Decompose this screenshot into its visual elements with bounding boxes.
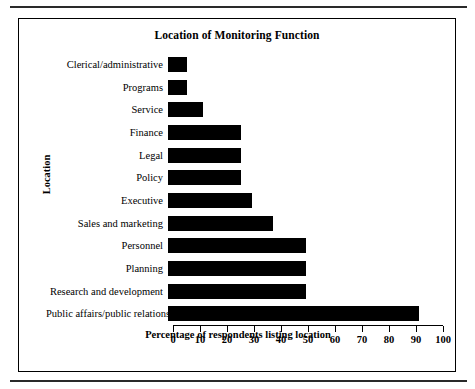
bar-category-label: Planning [46, 263, 168, 274]
bar-category-label: Personnel [46, 240, 168, 251]
x-axis-title: Percentage of respondents listing locati… [19, 329, 457, 340]
bar [168, 238, 306, 253]
bar-row: Executive [46, 189, 446, 212]
bar-lane [168, 257, 438, 280]
bar [168, 148, 241, 163]
bar-lane [168, 166, 438, 189]
bar-category-label: Legal [46, 150, 168, 161]
bar-lane [168, 121, 438, 144]
bar [168, 80, 187, 95]
page-rule-bottom [10, 380, 467, 382]
bar [168, 284, 306, 299]
bar-row: Personnel [46, 234, 446, 257]
bar-category-label: Sales and marketing [46, 218, 168, 229]
bar-lane [168, 302, 438, 325]
bar-row: Research and development [46, 280, 446, 303]
bar-category-label: Research and development [46, 286, 168, 297]
bar-row: Clerical/administrative [46, 53, 446, 76]
bar-lane [168, 212, 438, 235]
bar-category-label: Service [46, 104, 168, 115]
chart-title: Location of Monitoring Function [19, 29, 455, 41]
page-rule-top [10, 6, 467, 8]
bar-category-label: Clerical/administrative [46, 59, 168, 70]
x-axis: 0102030405060708090100 [173, 325, 443, 326]
bar-lane [168, 76, 438, 99]
bar-row: Finance [46, 121, 446, 144]
bar-row: Programs [46, 76, 446, 99]
bar-row: Planning [46, 257, 446, 280]
bar-category-label: Public affairs/public relations [46, 308, 168, 319]
bar-row: Public affairs/public relations [46, 302, 446, 325]
bar-lane [168, 280, 438, 303]
bar-lane [168, 234, 438, 257]
bar-lane [168, 98, 438, 121]
plot-area: Clerical/administrativeProgramsServiceFi… [46, 53, 446, 343]
bar-row: Sales and marketing [46, 212, 446, 235]
bar-category-label: Executive [46, 195, 168, 206]
bar [168, 306, 419, 321]
bar [168, 193, 252, 208]
bar-row: Service [46, 98, 446, 121]
bar-category-label: Policy [46, 172, 168, 183]
bar-category-label: Finance [46, 127, 168, 138]
bar [168, 170, 241, 185]
bar [168, 261, 306, 276]
chart-frame: Location of Monitoring Function Location… [18, 18, 456, 372]
bar [168, 216, 273, 231]
bar-row: Policy [46, 166, 446, 189]
bar-category-label: Programs [46, 82, 168, 93]
bar-lane [168, 189, 438, 212]
bar [168, 102, 203, 117]
bar-lane [168, 144, 438, 167]
bar-row: Legal [46, 144, 446, 167]
bar [168, 57, 187, 72]
bar [168, 125, 241, 140]
bar-lane [168, 53, 438, 76]
bar-rows: Clerical/administrativeProgramsServiceFi… [46, 53, 446, 325]
